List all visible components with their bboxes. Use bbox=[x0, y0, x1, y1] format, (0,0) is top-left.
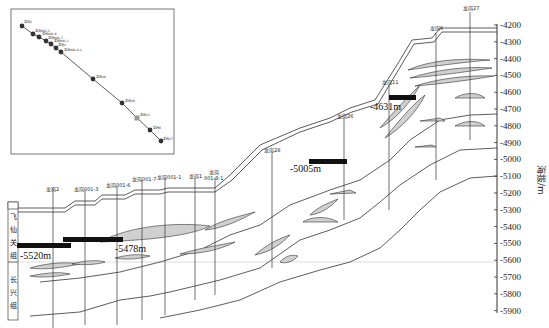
well-label: 龙岗001-3 bbox=[74, 186, 99, 193]
axis-label: 海拔/m bbox=[536, 165, 547, 195]
svg-text:组: 组 bbox=[10, 301, 17, 310]
svg-text:-5100: -5100 bbox=[500, 171, 521, 181]
well-label: 龙岗001-7 bbox=[132, 176, 157, 183]
svg-text:-5600: -5600 bbox=[500, 255, 521, 265]
svg-text:-4400: -4400 bbox=[500, 54, 521, 64]
well-label: 龙岗28 bbox=[264, 147, 280, 154]
gwc-annotation: -5478m bbox=[115, 243, 146, 254]
well-label: 龙岗001-1 bbox=[157, 174, 182, 181]
well-label: 001-8-1 bbox=[204, 175, 224, 181]
svg-text:仙: 仙 bbox=[10, 225, 17, 234]
svg-text:-5400: -5400 bbox=[500, 222, 521, 232]
gwc-annotation: -5005m bbox=[290, 163, 321, 174]
svg-text:-5300: -5300 bbox=[500, 205, 521, 215]
well-label: 龙岗001-6 bbox=[106, 182, 131, 189]
svg-text:-4800: -4800 bbox=[500, 121, 521, 131]
well-label: 龙岗26 bbox=[337, 113, 353, 120]
inset-label: 龙岗6 bbox=[153, 125, 161, 130]
svg-text:-4300: -4300 bbox=[500, 37, 521, 47]
well-label: 龙岗1 bbox=[189, 173, 202, 180]
inset-label: 龙岗1 bbox=[58, 42, 66, 47]
cross-section-diagram: 龙岗2 龙岗001-3 龙岗001-6 龙岗001-7 龙岗001-1 龙岗1 … bbox=[0, 0, 549, 328]
well-label: 龙岗6 bbox=[430, 25, 443, 32]
svg-text:兴: 兴 bbox=[10, 288, 17, 297]
svg-text:-5900: -5900 bbox=[500, 306, 521, 316]
inset-label: 龙岗27 bbox=[163, 136, 173, 141]
inset-label: 龙岗26 bbox=[125, 98, 135, 103]
inset-label: 龙岗28 bbox=[96, 74, 106, 79]
svg-text:组: 组 bbox=[10, 251, 17, 260]
well-label: 龙岗27 bbox=[463, 5, 479, 12]
svg-text:-5500: -5500 bbox=[500, 238, 521, 248]
inset-location-map: 龙岗2 龙岗001-3 龙岗001-6 龙岗001-7 龙岗001-1 龙岗1 … bbox=[11, 9, 174, 154]
svg-text:-5800: -5800 bbox=[500, 289, 521, 299]
svg-text:-4200: -4200 bbox=[500, 20, 521, 30]
inset-label: 龙岗001-8-1 bbox=[64, 47, 82, 52]
elevation-axis: -4200 -4300 -4400 -4500 -4600 -4700 -480… bbox=[494, 20, 547, 316]
svg-text:-4600: -4600 bbox=[500, 87, 521, 97]
svg-text:-4500: -4500 bbox=[500, 70, 521, 80]
well-label: 龙岗2 bbox=[46, 186, 59, 193]
inset-label: 龙岗2 bbox=[24, 19, 32, 24]
svg-text:关: 关 bbox=[10, 238, 17, 247]
svg-text:-5700: -5700 bbox=[500, 272, 521, 282]
svg-text:飞: 飞 bbox=[10, 213, 17, 221]
svg-text:-5200: -5200 bbox=[500, 188, 521, 198]
inset-label: 龙岗11 bbox=[140, 112, 150, 117]
svg-text:-5000: -5000 bbox=[500, 154, 521, 164]
formation-column: 飞 仙 关 组 长 兴 组 bbox=[8, 202, 497, 320]
well-label: 龙岗11 bbox=[382, 79, 398, 86]
svg-text:-4900: -4900 bbox=[500, 138, 521, 148]
svg-text:-4700: -4700 bbox=[500, 104, 521, 114]
svg-text:长: 长 bbox=[10, 275, 17, 284]
gwc-annotation: -5520m bbox=[20, 250, 51, 261]
gwc-annotation: -4631m bbox=[370, 101, 401, 112]
